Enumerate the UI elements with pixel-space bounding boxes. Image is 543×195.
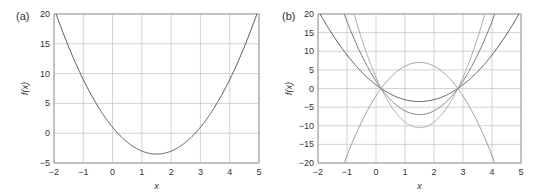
y-tick-label: 10 (40, 69, 50, 79)
panel-label: (a) (16, 10, 29, 22)
x-tick-label: −1 (78, 167, 88, 177)
x-axis-label: x (153, 181, 159, 191)
y-tick-label: 0 (45, 128, 50, 138)
x-tick-label: 0 (373, 167, 378, 177)
x-tick-label: 3 (460, 167, 465, 177)
x-tick-label: 4 (227, 167, 232, 177)
y-tick-label: 15 (304, 28, 314, 38)
y-tick-label: 20 (304, 9, 314, 19)
x-tick-label: −2 (313, 167, 323, 177)
x-tick-label: 2 (431, 167, 436, 177)
x-tick-label: 4 (489, 167, 494, 177)
y-tick-label: 15 (40, 39, 50, 49)
x-tick-label: 0 (110, 167, 115, 177)
y-tick-label: 20 (40, 9, 50, 19)
series-line (54, 8, 259, 154)
x-tick-label: 1 (402, 167, 407, 177)
y-tick-label: 5 (309, 65, 314, 75)
x-tick-label: 5 (256, 167, 261, 177)
x-tick-label: 3 (198, 167, 203, 177)
y-tick-label: −20 (299, 158, 314, 168)
y-axis-label: f(x) (284, 82, 294, 95)
y-tick-label: −10 (299, 121, 314, 131)
x-tick-label: 1 (139, 167, 144, 177)
panel-a: −2−1012345−505101520(a)xf(x) (16, 8, 262, 191)
series-line (318, 0, 521, 128)
x-tick-label: 5 (518, 167, 523, 177)
plot-frame (54, 14, 259, 163)
y-tick-label: 0 (309, 84, 314, 94)
chart-canvas: −2−1012345−505101520(a)xf(x)−2−1012345−2… (0, 0, 543, 195)
panel-label: (b) (282, 10, 295, 22)
y-tick-label: 5 (45, 98, 50, 108)
panel-b: −2−1012345−20−15−10−505101520(b)xf(x) (282, 0, 524, 195)
y-tick-label: −15 (299, 139, 314, 149)
y-axis-label: f(x) (20, 82, 30, 95)
x-axis-label: x (416, 181, 422, 191)
x-tick-label: 2 (169, 167, 174, 177)
x-tick-label: −2 (49, 167, 59, 177)
x-tick-label: −1 (342, 167, 352, 177)
y-tick-label: −5 (304, 102, 314, 112)
y-tick-label: −5 (40, 158, 50, 168)
y-tick-label: 10 (304, 46, 314, 56)
